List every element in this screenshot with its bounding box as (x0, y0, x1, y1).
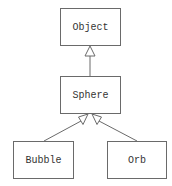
class-object[interactable]: Object (60, 8, 121, 46)
class-name: Orb (128, 155, 146, 166)
edge-orb-sphere (92, 114, 137, 141)
class-name: Object (72, 22, 108, 33)
class-bubble[interactable]: Bubble (13, 141, 74, 179)
class-sphere[interactable]: Sphere (60, 76, 121, 114)
edge-sphere-object (85, 46, 95, 76)
generalization-arrowhead-icon (79, 114, 89, 125)
class-orb[interactable]: Orb (107, 141, 167, 179)
edge-bubble-sphere (44, 114, 88, 141)
generalization-arrowhead-icon (85, 46, 95, 56)
class-name: Bubble (25, 155, 61, 166)
class-name: Sphere (72, 90, 108, 101)
generalization-arrowhead-icon (92, 114, 102, 125)
